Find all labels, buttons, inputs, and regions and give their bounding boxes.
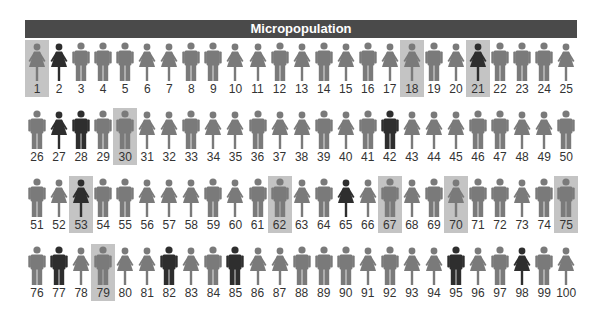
female-figure-icon xyxy=(158,42,180,82)
male-figure-icon xyxy=(114,178,136,218)
male-figure-icon xyxy=(379,110,401,150)
male-figure-icon xyxy=(423,178,445,218)
male-figure-icon xyxy=(313,42,335,82)
population-row: 7677787980818283848586878889909192939495… xyxy=(25,244,580,312)
male-figure-icon xyxy=(26,178,48,218)
male-figure-icon xyxy=(313,246,335,286)
female-figure-icon xyxy=(555,42,577,82)
male-figure-icon xyxy=(511,42,533,82)
male-figure-icon xyxy=(48,246,70,286)
male-figure-icon xyxy=(489,110,511,150)
female-figure-icon xyxy=(269,110,291,150)
population-row: 5152535455565758596061626364656667686970… xyxy=(25,176,580,244)
female-figure-icon xyxy=(423,110,445,150)
female-figure-icon xyxy=(357,246,379,286)
female-figure-icon xyxy=(202,110,224,150)
male-figure-icon xyxy=(92,178,114,218)
female-figure-icon xyxy=(401,246,423,286)
female-figure-icon xyxy=(180,178,202,218)
male-figure-icon xyxy=(533,178,555,218)
male-figure-icon xyxy=(70,110,92,150)
male-figure-icon xyxy=(92,246,114,286)
female-figure-icon xyxy=(379,42,401,82)
female-figure-icon xyxy=(511,110,533,150)
male-figure-icon xyxy=(202,246,224,286)
male-figure-icon xyxy=(114,110,136,150)
person-100: 100 xyxy=(554,244,578,301)
female-figure-icon xyxy=(224,110,246,150)
female-figure-icon xyxy=(291,178,313,218)
male-figure-icon xyxy=(357,42,379,82)
male-figure-icon xyxy=(247,110,269,150)
male-figure-icon xyxy=(313,178,335,218)
female-figure-icon xyxy=(180,246,202,286)
population-row: 1234567891011121314151617181920212223242… xyxy=(25,40,580,108)
male-figure-icon xyxy=(269,42,291,82)
female-figure-icon xyxy=(291,42,313,82)
male-figure-icon xyxy=(335,246,357,286)
person-number-label: 100 xyxy=(550,286,582,300)
male-figure-icon xyxy=(180,110,202,150)
male-figure-icon xyxy=(92,42,114,82)
female-figure-icon xyxy=(247,42,269,82)
person-25: 25 xyxy=(554,40,578,97)
female-figure-icon xyxy=(114,246,136,286)
male-figure-icon xyxy=(489,42,511,82)
person-50: 50 xyxy=(554,108,578,165)
female-figure-icon xyxy=(26,42,48,82)
female-figure-icon xyxy=(136,246,158,286)
title-bar: Micropopulation xyxy=(25,20,577,38)
female-figure-icon xyxy=(335,110,357,150)
female-figure-icon xyxy=(335,42,357,82)
female-figure-icon xyxy=(357,178,379,218)
male-figure-icon xyxy=(202,42,224,82)
female-figure-icon xyxy=(247,246,269,286)
female-figure-icon xyxy=(467,246,489,286)
male-figure-icon xyxy=(313,110,335,150)
female-figure-icon xyxy=(70,246,92,286)
female-figure-icon xyxy=(445,178,467,218)
female-figure-icon xyxy=(445,42,467,82)
female-figure-icon xyxy=(48,42,70,82)
male-figure-icon xyxy=(555,110,577,150)
female-figure-icon xyxy=(136,178,158,218)
male-figure-icon xyxy=(92,110,114,150)
female-figure-icon xyxy=(269,246,291,286)
female-figure-icon xyxy=(48,110,70,150)
female-figure-icon xyxy=(291,110,313,150)
female-figure-icon xyxy=(335,178,357,218)
female-figure-icon xyxy=(401,42,423,82)
male-figure-icon xyxy=(202,178,224,218)
person-number-label: 50 xyxy=(550,150,582,164)
female-figure-icon xyxy=(224,178,246,218)
male-figure-icon xyxy=(180,42,202,82)
male-figure-icon xyxy=(291,246,313,286)
male-figure-icon xyxy=(247,178,269,218)
female-figure-icon xyxy=(158,178,180,218)
female-figure-icon xyxy=(533,110,555,150)
person-75-highlighted: 75 xyxy=(554,176,578,233)
male-figure-icon xyxy=(489,178,511,218)
person-number-label: 25 xyxy=(550,82,582,96)
female-figure-icon xyxy=(48,178,70,218)
male-figure-icon xyxy=(26,246,48,286)
population-row: 2627282930313233343536373839404142434445… xyxy=(25,108,580,176)
female-figure-icon xyxy=(467,42,489,82)
female-figure-icon xyxy=(511,246,533,286)
male-figure-icon xyxy=(379,246,401,286)
male-figure-icon xyxy=(269,178,291,218)
male-figure-icon xyxy=(70,42,92,82)
male-figure-icon xyxy=(489,246,511,286)
male-figure-icon xyxy=(467,178,489,218)
male-figure-icon xyxy=(423,42,445,82)
female-figure-icon xyxy=(511,178,533,218)
female-figure-icon xyxy=(136,110,158,150)
female-figure-icon xyxy=(445,110,467,150)
female-figure-icon xyxy=(423,246,445,286)
male-figure-icon xyxy=(533,246,555,286)
female-figure-icon xyxy=(224,42,246,82)
male-figure-icon xyxy=(445,246,467,286)
male-figure-icon xyxy=(533,42,555,82)
female-figure-icon xyxy=(158,110,180,150)
male-figure-icon xyxy=(467,110,489,150)
